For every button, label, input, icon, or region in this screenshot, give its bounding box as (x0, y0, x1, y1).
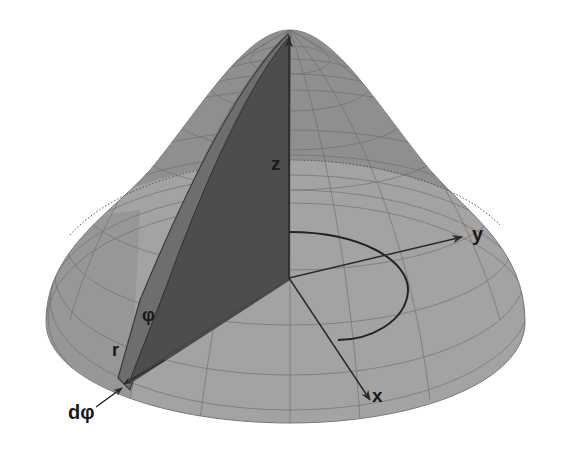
dphi-pointer-arrow (96, 388, 122, 407)
dphi-label: dφ (68, 402, 95, 422)
y-axis-label: y (472, 224, 483, 244)
radius-label: r (112, 341, 119, 359)
paraboloid-diagram: z y x φ r dφ (0, 0, 561, 454)
angle-label: φ (142, 306, 155, 324)
x-axis-label: x (372, 386, 383, 405)
z-axis-label: z (271, 154, 281, 173)
